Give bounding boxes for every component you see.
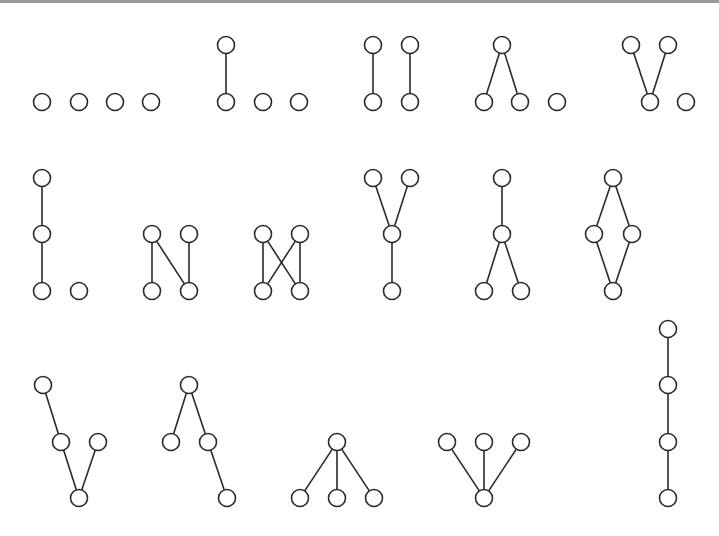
hasse-edge xyxy=(376,186,390,226)
hasse-edge xyxy=(46,393,59,434)
poset-element-node xyxy=(200,434,217,451)
poset-element-node xyxy=(53,434,70,451)
poset-chain-4 xyxy=(660,321,677,507)
poset-chain-with-branch-top xyxy=(163,377,236,507)
hasse-edge xyxy=(82,450,96,490)
poset-bowtie xyxy=(255,226,309,300)
poset-element-node xyxy=(144,283,161,300)
poset-diamond xyxy=(586,170,641,300)
poset-element-node xyxy=(678,94,695,111)
poset-element-node xyxy=(494,170,511,187)
poset-element-node xyxy=(366,490,383,507)
poset-element-node xyxy=(494,37,511,54)
poset-element-node xyxy=(219,490,236,507)
poset-element-node xyxy=(623,37,640,54)
hasse-edge xyxy=(487,242,500,283)
poset-element-node xyxy=(35,377,52,394)
poset-element-node xyxy=(71,94,88,111)
poset-element-node xyxy=(329,490,346,507)
hasse-edge xyxy=(597,242,611,283)
poset-antichain-4 xyxy=(34,94,160,111)
poset-element-node xyxy=(218,94,235,111)
hasse-edge xyxy=(157,241,185,284)
poset-element-node xyxy=(476,434,493,451)
poset-chain3-plus-1 xyxy=(34,170,88,300)
hasse-edge xyxy=(192,393,206,434)
poset-two-chains-2 xyxy=(365,37,419,111)
poset-element-node xyxy=(512,94,529,111)
hasse-edge xyxy=(64,450,77,490)
poset-element-node xyxy=(292,283,309,300)
poset-element-node xyxy=(143,94,160,111)
poset-chain2-plus-2 xyxy=(218,37,308,111)
poset-element-node xyxy=(476,94,493,111)
poset-element-node xyxy=(605,283,622,300)
poset-element-node xyxy=(660,490,677,507)
hasse-edge xyxy=(616,186,630,226)
poset-element-node xyxy=(71,283,88,300)
poset-element-node xyxy=(365,170,382,187)
hasse-edge xyxy=(452,449,480,491)
poset-element-node xyxy=(181,377,198,394)
hasse-edge xyxy=(395,186,408,226)
poset-element-node xyxy=(255,94,272,111)
poset-element-node xyxy=(255,283,272,300)
hasse-edge xyxy=(653,53,666,94)
poset-element-node xyxy=(34,226,51,243)
poset-element-node xyxy=(144,226,161,243)
hasse-edge xyxy=(597,186,611,226)
poset-element-node xyxy=(365,37,382,54)
poset-element-node xyxy=(292,490,309,507)
poset-element-node xyxy=(107,94,124,111)
poset-element-node xyxy=(605,170,622,187)
poset-element-node xyxy=(660,37,677,54)
hasse-edge xyxy=(211,450,225,490)
poset-vee-plus-1 xyxy=(623,37,695,111)
poset-element-node xyxy=(292,226,309,243)
hasse-edge xyxy=(634,53,648,94)
poset-element-node xyxy=(255,226,272,243)
poset-element-node xyxy=(494,226,511,243)
hasse-edge xyxy=(487,53,500,94)
poset-element-node xyxy=(181,283,198,300)
poset-element-node xyxy=(549,94,566,111)
poset-element-node xyxy=(476,490,493,507)
poset-diagram xyxy=(0,0,719,536)
poset-element-node xyxy=(218,37,235,54)
poset-inverted-y xyxy=(476,170,530,300)
poset-element-node xyxy=(513,283,530,300)
poset-element-node xyxy=(71,490,88,507)
hasse-edge xyxy=(616,242,630,283)
poset-element-node xyxy=(181,226,198,243)
hasse-edge xyxy=(342,449,370,491)
poset-element-node xyxy=(163,434,180,451)
poset-element-node xyxy=(384,283,401,300)
poset-lambda-plus-1 xyxy=(476,37,566,111)
poset-element-node xyxy=(660,321,677,338)
poset-element-node xyxy=(34,283,51,300)
poset-element-node xyxy=(660,377,677,394)
poset-element-node xyxy=(329,434,346,451)
hasse-edge xyxy=(174,393,187,434)
hasse-edge xyxy=(505,53,518,94)
poset-element-node xyxy=(34,170,51,187)
poset-element-node xyxy=(439,434,456,451)
hasse-edge xyxy=(505,242,519,283)
hasse-edge xyxy=(305,449,333,491)
poset-element-node xyxy=(513,434,530,451)
poset-element-node xyxy=(624,226,641,243)
poset-element-node xyxy=(402,170,419,187)
poset-claw-down xyxy=(292,434,383,507)
poset-element-node xyxy=(90,434,107,451)
poset-chain-with-branch-bottom xyxy=(35,377,107,507)
poset-element-node xyxy=(660,434,677,451)
poset-y-poset xyxy=(365,170,419,300)
poset-element-node xyxy=(402,37,419,54)
poset-element-node xyxy=(642,94,659,111)
poset-element-node xyxy=(384,226,401,243)
poset-element-node xyxy=(476,283,493,300)
poset-element-node xyxy=(365,94,382,111)
poset-element-node xyxy=(34,94,51,111)
hasse-edge xyxy=(489,449,517,491)
poset-element-node xyxy=(586,226,603,243)
